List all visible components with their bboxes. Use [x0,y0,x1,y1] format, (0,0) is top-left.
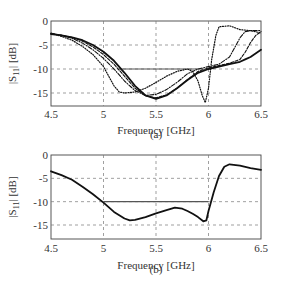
x-tick-label: 5.5 [149,242,163,254]
panel-caption: (a) [150,128,163,141]
y-tick-label: -10 [33,63,48,75]
chart-panel-b: 0-5-10-154.555.566.5Frequency [GHz]|S11|… [6,149,268,276]
y-axis-label: |S11| [dB] [6,176,21,217]
y-tick-label: 0 [43,149,49,161]
x-tick-label: 6.5 [254,242,268,254]
y-tick-label: -15 [33,219,48,231]
x-tick-label: 5 [101,242,107,254]
y-tick-label: 0 [43,15,49,27]
x-tick-label: 6 [206,108,212,120]
x-tick-label: 4.5 [44,242,58,254]
chart-figure: 0-5-10-154.555.566.5Frequency [GHz]|S11|… [0,0,282,296]
y-tick-label: -5 [39,39,49,51]
x-tick-label: 4.5 [44,108,58,120]
y-tick-label: -10 [33,196,48,208]
x-tick-label: 6.5 [254,108,268,120]
x-tick-label: 6 [206,242,212,254]
y-axis-label: |S11| [dB] [6,43,21,84]
x-tick-label: 5 [101,108,107,120]
y-tick-label: -15 [33,87,48,99]
y-tick-label: -5 [39,172,49,184]
chart-panel-a: 0-5-10-154.555.566.5Frequency [GHz]|S11|… [6,15,268,141]
x-tick-label: 5.5 [149,108,163,120]
panel-caption: (b) [150,263,163,276]
